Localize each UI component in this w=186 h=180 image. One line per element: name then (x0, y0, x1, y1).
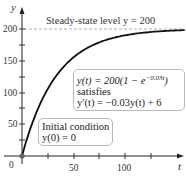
y-tick-label-150: 150 (3, 56, 18, 66)
init-line-1: Initial condition (42, 121, 109, 132)
x-axis-arrow-icon (177, 154, 184, 159)
y-axis-arrow-icon (20, 7, 25, 14)
x-tick-label-50: 50 (69, 163, 79, 173)
formula-line-1: y(t) = 200(1 − e−0.03t) (77, 72, 181, 86)
origin-label: 0 (9, 160, 14, 170)
y-tick-label-200: 200 (3, 24, 18, 34)
y-axis-label: y (10, 1, 16, 13)
steady-state-label: Steady-state level y = 200 (46, 15, 155, 26)
y-tick-label-100: 100 (3, 88, 18, 98)
initial-point-marker (19, 153, 24, 158)
solution-formula-box: y(t) = 200(1 − e−0.03t) satisfies y′(t) … (73, 69, 185, 111)
formula-line-2: satisfies (77, 86, 181, 97)
y-tick-label-50: 50 (8, 119, 18, 129)
formula-line-3: y′(t) = −0.03y(t) + 6 (77, 97, 181, 108)
initial-condition-box: Initial condition y(0) = 0 (38, 118, 113, 146)
init-line-2: y(0) = 0 (42, 132, 109, 143)
x-axis-label: t (178, 160, 182, 172)
x-tick-label-100: 100 (117, 163, 132, 173)
